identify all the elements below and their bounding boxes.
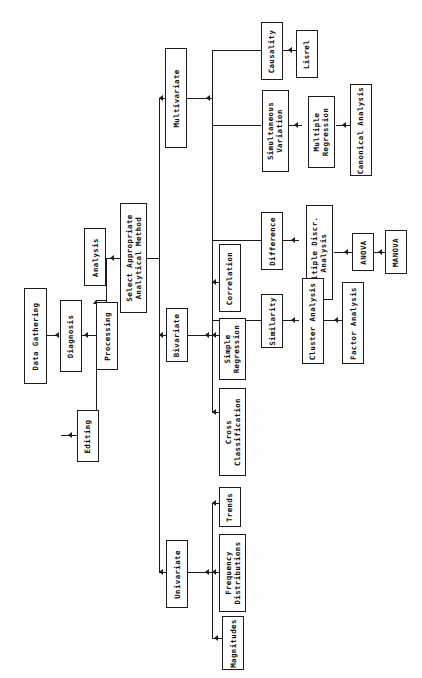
node-simple-regression[interactable]: Simple Regression <box>219 318 246 380</box>
arrowhead-cross-classification <box>212 409 216 415</box>
edge-select-out <box>147 258 159 259</box>
node-label: Trends <box>226 492 235 521</box>
edge-fan-simultaneous <box>212 125 261 126</box>
arrowhead-processing <box>84 332 88 338</box>
node-frequency-distributions[interactable]: Frequency Distributions <box>219 534 246 612</box>
edge-cluster-factor <box>324 320 342 321</box>
node-label: Select Appropriate Analytical Method <box>125 214 143 301</box>
edge-mda-anova <box>334 252 352 253</box>
node-diagnosis[interactable]: Diagnosis <box>60 300 82 372</box>
arrowhead-select-method <box>110 255 114 261</box>
node-lisrel[interactable]: Lisrel <box>296 30 318 78</box>
arrowhead-multiple-discr <box>291 237 295 243</box>
arrowhead-univariate <box>159 569 163 575</box>
node-trends[interactable]: Trends <box>219 487 241 527</box>
node-editing[interactable]: Editing <box>77 410 99 462</box>
node-univariate[interactable]: Univariate <box>166 540 188 608</box>
node-manova[interactable]: MANOVA <box>385 230 407 274</box>
node-label: Processing <box>103 312 112 361</box>
edge-fan-causality <box>212 50 261 51</box>
edge-analysis-drop <box>106 258 107 300</box>
edge-bivariate-fanbus <box>212 282 213 412</box>
arrowhead-frequency-distributions <box>212 569 216 575</box>
node-label: Causality <box>268 29 277 73</box>
arrowhead-manova <box>378 249 382 255</box>
node-data-gathering[interactable]: Data Gathering <box>24 288 47 384</box>
arrowhead-editing <box>68 432 72 438</box>
node-label: Frequency Distributions <box>224 541 242 604</box>
node-label: Simple Regression <box>224 325 242 374</box>
arrowhead-bivariate <box>159 332 163 338</box>
node-label: MANOVA <box>392 237 401 266</box>
arrowhead-magnitudes <box>214 635 218 641</box>
arrowhead-lisrel <box>288 47 292 53</box>
node-label: Factor Analysis <box>349 287 358 360</box>
node-simultaneous-variation[interactable]: Simultaneous Variation <box>262 90 289 172</box>
arrowhead-multivariate-fan <box>206 95 210 101</box>
node-magnitudes[interactable]: Magnitudes <box>222 616 244 670</box>
node-multivariate[interactable]: Multivariate <box>165 48 187 148</box>
node-label: Similarity <box>268 297 277 346</box>
arrowhead-simple-regression <box>212 332 216 338</box>
node-cluster-analysis[interactable]: Cluster Analysis <box>302 278 324 364</box>
node-canonical-analysis[interactable]: Canonical Analysis <box>350 84 372 176</box>
node-processing[interactable]: Processing <box>96 302 118 370</box>
node-cross-classification[interactable]: Cross Classification <box>219 388 246 476</box>
node-analysis[interactable]: Analysis <box>84 228 106 286</box>
edge-fan-difference <box>212 240 261 241</box>
node-label: Diagnosis <box>67 314 76 358</box>
arrowhead-diagnosis <box>55 332 59 338</box>
node-label: Analysis <box>91 238 100 277</box>
arrowhead-trends <box>212 500 216 506</box>
node-correlation[interactable]: Correlation <box>219 244 241 312</box>
flowchart-canvas: Data Gathering Diagnosis Editing Process… <box>0 0 422 678</box>
node-label: Multivariate <box>172 69 181 127</box>
node-label: Cluster Analysis <box>309 282 318 360</box>
node-select-method[interactable]: Select Appropriate Analytical Method <box>120 203 147 313</box>
node-label: Difference <box>268 217 277 266</box>
node-label: Bivariate <box>173 313 182 357</box>
arrowhead-multiple-regression <box>294 122 298 128</box>
node-label: Correlation <box>226 251 235 304</box>
node-difference[interactable]: Difference <box>261 212 283 270</box>
arrowhead-canonical-analysis <box>342 122 346 128</box>
node-label: Univariate <box>173 550 182 599</box>
node-factor-analysis[interactable]: Factor Analysis <box>342 282 364 364</box>
node-label: Cross Classification <box>224 398 242 466</box>
node-similarity[interactable]: Similarity <box>261 294 283 348</box>
node-anova[interactable]: ANOVA <box>352 233 374 271</box>
node-label: Simultaneous Variation <box>267 102 285 160</box>
node-label: ANOVA <box>359 240 368 264</box>
arrowhead-multivariate <box>159 95 163 101</box>
node-label: Data Gathering <box>31 302 40 370</box>
arrowhead-correlation <box>212 279 216 285</box>
arrowhead-univariate-fan <box>205 569 209 575</box>
node-causality[interactable]: Causality <box>261 22 283 80</box>
arrowhead-anova <box>344 249 348 255</box>
node-label: Canonical Analysis <box>357 86 366 173</box>
node-label: Multiple Regression <box>313 108 331 157</box>
arrowhead-bivariate-fan <box>205 332 209 338</box>
arrowhead-cluster-analysis <box>291 317 295 323</box>
node-multiple-regression[interactable]: Multiple Regression <box>308 96 335 168</box>
node-bivariate[interactable]: Bivariate <box>166 308 188 362</box>
node-label: Lisrel <box>303 39 312 68</box>
node-label: Editing <box>84 419 93 453</box>
node-label: Magnitudes <box>229 619 238 668</box>
arrowhead-factor-analysis <box>334 317 338 323</box>
